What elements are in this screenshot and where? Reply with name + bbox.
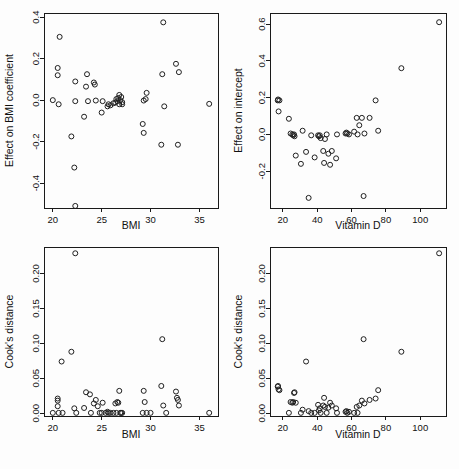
- data-point: [399, 349, 404, 354]
- data-point: [359, 115, 364, 120]
- data-point: [85, 99, 90, 104]
- data-point: [144, 90, 149, 95]
- diagnostic-plot-figure: 20253035-0.4-0.20.00.20.4BMIEffect on BM…: [0, 0, 459, 469]
- data-point: [306, 195, 311, 200]
- data-point: [88, 410, 93, 415]
- data-point: [334, 132, 339, 137]
- data-point: [298, 161, 303, 166]
- data-point: [50, 410, 55, 415]
- data-point: [73, 79, 78, 84]
- y-tick-label: 0.4: [31, 11, 42, 24]
- y-tick-label: -0.2: [257, 163, 268, 179]
- data-point: [373, 98, 378, 103]
- y-axis-title: Effect on BMI coefficient: [3, 54, 15, 167]
- x-axis-title: Vitamin D: [335, 219, 381, 231]
- x-axis-title: Vitamin D: [335, 428, 381, 440]
- data-point: [322, 395, 327, 400]
- x-tick-label: 20: [278, 214, 289, 225]
- data-point: [173, 389, 178, 394]
- panel-bottom-right: 204060801000.000.050.100.150.20Vitamin D…: [230, 235, 459, 469]
- data-point: [334, 156, 339, 161]
- data-point: [82, 405, 87, 410]
- panel-top-right: 20406080100-0.20.00.20.40.6Vitamin DEffe…: [230, 0, 459, 235]
- data-point: [84, 84, 89, 89]
- data-point: [57, 34, 62, 39]
- data-point: [367, 115, 372, 120]
- data-point: [176, 403, 181, 408]
- plot-frame: [44, 247, 218, 416]
- x-tick-label: 25: [96, 422, 107, 433]
- data-point: [55, 73, 60, 78]
- y-axis-title: Effect on intercept: [232, 68, 244, 153]
- panel-bottom-right-svg: 204060801000.000.050.100.150.20Vitamin D…: [230, 235, 459, 469]
- y-tick-label: -0.2: [31, 133, 42, 149]
- data-point: [160, 72, 165, 77]
- data-point: [173, 61, 178, 66]
- data-point: [276, 109, 281, 114]
- data-point: [304, 359, 309, 364]
- plot-frame: [270, 13, 446, 208]
- data-point: [361, 337, 366, 342]
- x-axis-title: BMI: [122, 428, 141, 440]
- data-point: [207, 410, 212, 415]
- data-point: [361, 194, 366, 199]
- data-point: [362, 131, 367, 136]
- data-point: [159, 383, 164, 388]
- data-point: [159, 142, 164, 147]
- data-point: [95, 404, 100, 409]
- data-point: [355, 410, 360, 415]
- data-point: [309, 133, 314, 138]
- x-tick-label: 30: [145, 214, 156, 225]
- x-tick-label: 30: [145, 422, 156, 433]
- data-point: [312, 155, 317, 160]
- data-point: [437, 251, 442, 256]
- y-tick-label: 0.10: [257, 334, 268, 353]
- panel-top-left: 20253035-0.4-0.20.00.20.4BMIEffect on BM…: [0, 0, 230, 235]
- data-point: [73, 251, 78, 256]
- data-point: [357, 123, 362, 128]
- data-point: [321, 148, 326, 153]
- panel-bottom-left: 202530350.000.050.100.150.20BMICook's di…: [0, 235, 230, 469]
- data-point: [355, 132, 360, 137]
- data-point: [324, 410, 329, 415]
- x-tick-label: 100: [412, 422, 428, 433]
- data-point: [55, 65, 60, 70]
- x-tick-label: 20: [48, 422, 59, 433]
- data-point: [74, 410, 79, 415]
- x-tick-label: 80: [381, 214, 392, 225]
- data-point: [328, 162, 333, 167]
- panel-bottom-left-svg: 202530350.000.050.100.150.20BMICook's di…: [0, 235, 230, 469]
- data-point: [207, 101, 212, 106]
- data-point: [59, 359, 64, 364]
- data-point: [99, 110, 104, 115]
- y-axis-title: Cook's distance: [232, 294, 244, 368]
- data-point: [141, 388, 146, 393]
- data-point: [82, 114, 87, 119]
- y-tick-label: -0.4: [31, 175, 42, 191]
- data-point: [376, 128, 381, 133]
- y-tick-label: 0.00: [31, 404, 42, 423]
- data-point: [304, 149, 309, 154]
- y-tick-label: 0.4: [257, 54, 268, 67]
- x-tick-label: 20: [48, 214, 59, 225]
- data-point: [329, 148, 334, 153]
- data-point: [160, 337, 165, 342]
- data-point: [73, 99, 78, 104]
- y-tick-label: 0.20: [31, 264, 42, 283]
- data-point: [72, 165, 77, 170]
- y-tick-label: 0.6: [257, 17, 268, 30]
- data-point: [141, 130, 146, 135]
- y-tick-label: 0.15: [31, 299, 42, 318]
- data-point: [286, 410, 291, 415]
- data-point: [324, 132, 329, 137]
- data-point: [367, 397, 372, 402]
- data-point: [286, 116, 291, 121]
- y-tick-label: 0.2: [257, 91, 268, 104]
- data-point: [69, 134, 74, 139]
- y-tick-label: 0.05: [257, 369, 268, 388]
- x-tick-label: 40: [312, 214, 323, 225]
- data-point: [140, 121, 145, 126]
- x-axis-title: BMI: [122, 219, 141, 231]
- data-point: [352, 129, 357, 134]
- data-point: [100, 400, 105, 405]
